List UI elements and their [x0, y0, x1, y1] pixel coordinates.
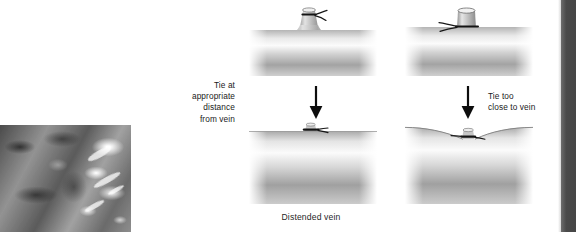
panel-bottom-right	[405, 122, 533, 204]
panel-top-right	[405, 2, 533, 76]
panel-bottom-left	[249, 122, 377, 204]
suture-tail	[318, 128, 328, 129]
label-tie-appropriate: Tie at appropriate distance from vein	[192, 80, 235, 125]
right-arrow	[459, 86, 477, 120]
branch-stump-lumen	[303, 8, 316, 12]
stump-lumen	[463, 128, 473, 131]
scan-gutter	[561, 0, 576, 232]
caption-text: Distended vein	[282, 212, 341, 222]
label-tie-too-close: Tie too close to vein	[488, 91, 535, 113]
suture-tail	[439, 23, 457, 27]
branch-stump-lumen	[458, 8, 475, 13]
suture-tail	[315, 16, 326, 21]
vein-edge-fade	[405, 27, 533, 76]
left-arrow	[307, 86, 325, 120]
panel-top-left	[249, 2, 377, 76]
vein-edge-fade	[249, 131, 377, 204]
figure-root: Tie at appropriate distance from vein Ti…	[0, 0, 576, 232]
stump-lumen	[306, 123, 315, 126]
figure-caption: Distended vein	[0, 212, 576, 222]
suture-tail	[315, 10, 327, 14]
vein-edge-fade	[249, 30, 377, 76]
